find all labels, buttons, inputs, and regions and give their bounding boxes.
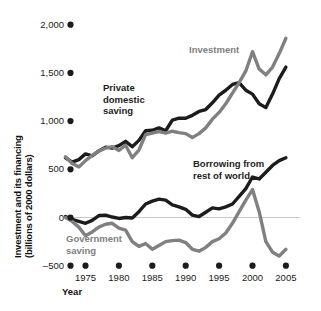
chart-container: 2,0001,5001,0005000–500 1975198019851990…	[0, 0, 321, 311]
y-tick-dot	[67, 118, 73, 124]
y-tick-label: 1,500	[20, 67, 64, 78]
x-tick-label: 1975	[70, 272, 102, 283]
x-axis-title: Year	[62, 286, 82, 297]
x-tick-label: 1985	[136, 272, 168, 283]
x-tick-dot	[82, 263, 88, 269]
series-label-borrowing-from-rest-of-world: Borrowing from rest of world	[193, 158, 264, 181]
series-line-private-domestic-saving	[65, 67, 285, 162]
series-label-government-saving: Government saving	[66, 233, 122, 256]
y-axis-title-line-1: Investment and its financing	[12, 135, 23, 258]
y-axis-title-line-2: (billions of 2000 dollars)	[23, 154, 34, 258]
x-tick-label: 1990	[170, 272, 202, 283]
y-tick-label: 2,000	[20, 19, 64, 30]
x-tick-dot	[283, 263, 289, 269]
x-tick-label: 2005	[270, 272, 302, 283]
series-label-investment: Investment	[189, 44, 239, 56]
x-tick-label: 2000	[237, 272, 269, 283]
y-tick-dot	[67, 22, 73, 28]
y-tick-label: 1,000	[20, 115, 64, 126]
x-tick-label: 1980	[103, 272, 135, 283]
x-tick-dot	[149, 263, 155, 269]
series-label-private-domestic-saving: Private domestic saving	[103, 82, 145, 117]
x-tick-dot	[249, 263, 255, 269]
y-tick-dot	[67, 263, 73, 269]
y-tick-dot	[67, 214, 73, 220]
x-tick-dot	[216, 263, 222, 269]
y-axis-tick-dots	[67, 22, 73, 269]
y-tick-label: –500	[20, 260, 64, 271]
x-tick-dot	[183, 263, 189, 269]
x-axis-tick-dots	[82, 263, 289, 269]
series-line-investment	[65, 38, 285, 167]
series-lines	[65, 38, 285, 256]
y-tick-dot	[67, 70, 73, 76]
y-tick-dot	[67, 166, 73, 172]
x-tick-dot	[116, 263, 122, 269]
x-tick-label: 1995	[203, 272, 235, 283]
